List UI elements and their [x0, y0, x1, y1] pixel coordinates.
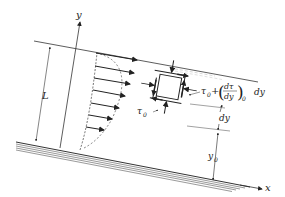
svg-text:0: 0: [214, 156, 218, 163]
fluid-element: [137, 56, 202, 119]
svg-text:0: 0: [143, 111, 147, 118]
y-axis: [60, 22, 80, 148]
tau-top-leader: [189, 92, 200, 95]
label-tau-top: τ 0 + ( dτ dy ) 0 dy: [201, 82, 266, 102]
svg-text:dτ: dτ: [224, 82, 234, 91]
tau0-leader: [153, 110, 158, 112]
diagram-svg: y x L τ 0 τ 0 + ( dτ dy ) 0 dy dy y 0: [0, 0, 285, 197]
x-axis: [240, 185, 262, 189]
y-axis-label: y: [75, 9, 82, 20]
flow-diagram: y x L τ 0 τ 0 + ( dτ dy ) 0 dy dy y 0: [0, 0, 285, 197]
svg-text:dy: dy: [254, 87, 266, 97]
free-surface: [34, 41, 258, 82]
label-y0: y 0: [207, 151, 218, 163]
velocity-profile: [80, 51, 137, 150]
svg-text:0: 0: [242, 95, 246, 102]
label-L: L: [41, 90, 49, 101]
svg-text:dy: dy: [224, 92, 234, 101]
label-dy: dy: [219, 113, 231, 123]
svg-text:y: y: [207, 151, 214, 161]
inclined-wall: [16, 142, 250, 192]
label-tau0: τ 0: [137, 106, 147, 118]
x-axis-label: x: [265, 182, 271, 193]
